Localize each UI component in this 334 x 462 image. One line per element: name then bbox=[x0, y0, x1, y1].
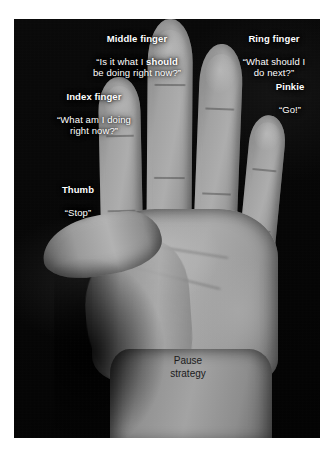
label-middle-finger-quote: “Is it what I should be doing right now?… bbox=[76, 56, 198, 79]
hand-pause-strategy-figure: Middle finger “Is it what I should be do… bbox=[0, 0, 334, 462]
ring-knuckle-crease bbox=[205, 108, 234, 111]
label-index-finger-quote: “What am I doing right now?” bbox=[36, 114, 152, 137]
quote-part-before: “Is it what I bbox=[96, 56, 146, 67]
label-thumb-title: Thumb bbox=[29, 184, 127, 196]
label-index-finger: Index finger “What am I doing right now?… bbox=[36, 79, 152, 149]
quote-part-bold: should bbox=[146, 56, 178, 67]
ring-knuckle-crease bbox=[202, 192, 231, 195]
left-side-shadow bbox=[54, 259, 164, 438]
label-middle-finger-title: Middle finger bbox=[76, 33, 198, 45]
middle-knuckle-crease bbox=[154, 177, 185, 179]
label-thumb: Thumb “Stop” bbox=[29, 172, 127, 230]
label-ring-finger-title: Ring finger bbox=[221, 33, 320, 45]
label-pinkie-quote: “Go!” bbox=[252, 104, 320, 116]
label-pinkie-title: Pinkie bbox=[252, 81, 320, 93]
label-thumb-quote: “Stop” bbox=[29, 207, 127, 219]
pinkie-knuckle-crease bbox=[252, 168, 277, 172]
label-pinkie: Pinkie “Go!” bbox=[252, 69, 320, 127]
hand-photograph: Middle finger “Is it what I should be do… bbox=[14, 19, 320, 438]
quote-part-after: be doing right now?” bbox=[93, 67, 181, 78]
label-index-finger-title: Index finger bbox=[36, 91, 152, 103]
label-pause-strategy: Pause strategy bbox=[145, 354, 231, 380]
